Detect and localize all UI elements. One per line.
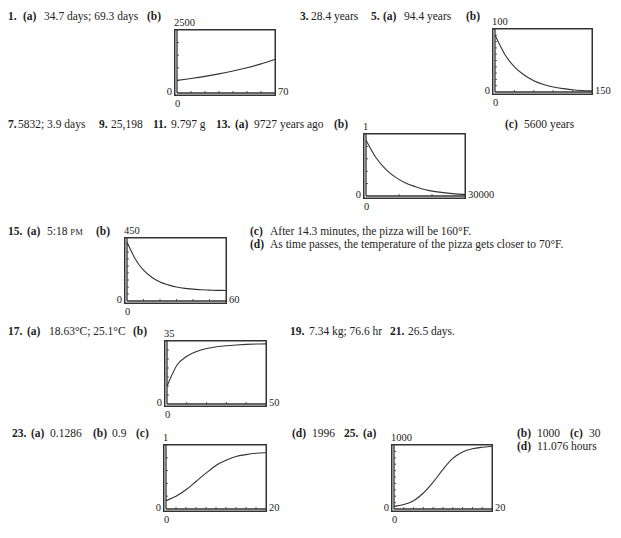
- answer-25d: 11.076 hours: [537, 440, 597, 453]
- answer-5a: 94.4 years: [404, 10, 451, 23]
- y-max-label: 1000: [391, 432, 412, 443]
- answer-number-11: 11.: [153, 118, 167, 131]
- graph-ex23c: 10020: [163, 444, 267, 512]
- x-max-label: 150: [595, 85, 611, 96]
- answer-number-13: 13.: [216, 118, 230, 131]
- answer-number-25: 25.: [344, 427, 358, 440]
- part-label-13b: (b): [334, 118, 348, 131]
- y-max-label: 450: [124, 225, 140, 236]
- x-max-label: 20: [269, 502, 280, 513]
- graph-plot: [492, 28, 593, 95]
- y-min-label: 0: [485, 85, 490, 96]
- y-max-label: 2500: [174, 17, 195, 28]
- graph-ex1b: 25000070: [174, 29, 276, 96]
- answer-1a: 34.7 days; 69.3 days: [44, 10, 138, 23]
- answer-number-23: 23.: [12, 427, 26, 440]
- part-label-25a: (a): [363, 427, 376, 440]
- graph-ex25a: 10000020: [391, 444, 493, 512]
- part-label-23d: (d): [292, 427, 306, 440]
- x-max-label: 60: [229, 294, 240, 305]
- answer-11: 9.797 g: [171, 118, 206, 131]
- answer-number-15: 15.: [8, 225, 22, 238]
- x-max-label: 70: [278, 86, 289, 97]
- part-label-1b: (b): [147, 10, 161, 23]
- answer-17a: 18.63°C; 25.1°C: [49, 325, 126, 338]
- answer-19: 7.34 kg; 76.6 hr: [309, 325, 382, 338]
- y-max-label: 35: [164, 328, 175, 339]
- answer-23a: 0.1286: [50, 427, 82, 440]
- answer-number-5: 5.: [371, 10, 380, 23]
- x-min-label: 0: [165, 409, 170, 420]
- graph-plot: [391, 444, 493, 512]
- part-label-23b: (b): [93, 427, 107, 440]
- y-min-label: 0: [156, 502, 161, 513]
- x-min-label: 0: [364, 201, 369, 212]
- answer-number-17: 17.: [8, 325, 22, 338]
- part-label-23c: (c): [136, 427, 149, 440]
- answer-number-3: 3.: [300, 10, 309, 23]
- answer-9: 25,198: [111, 118, 143, 131]
- x-max-label: 20: [495, 502, 506, 513]
- part-label-23a: (a): [31, 427, 44, 440]
- graph-plot: [124, 237, 227, 304]
- y-min-label: 0: [157, 397, 162, 408]
- part-label-1a: (a): [23, 10, 36, 23]
- part-label-5b: (b): [466, 10, 480, 23]
- answer-15a: 5:18 PM: [47, 225, 83, 239]
- graph-plot: [164, 340, 267, 407]
- y-min-label: 0: [356, 189, 361, 200]
- x-min-label: 0: [175, 98, 180, 109]
- graph-ex5b: 10000150: [492, 28, 593, 95]
- x-max-label: 30000: [468, 189, 494, 200]
- answer-23b: 0.9: [112, 427, 126, 440]
- answer-25b: 1000: [537, 427, 560, 440]
- y-min-label: 0: [384, 502, 389, 513]
- y-max-label: 100: [492, 16, 508, 27]
- answer-25c: 30: [589, 427, 601, 440]
- answer-7: 5832; 3.9 days: [18, 118, 85, 131]
- y-min-label: 0: [117, 294, 122, 305]
- answer-number-21: 21.: [390, 325, 404, 338]
- y-max-label: 1: [163, 432, 168, 443]
- part-label-15a: (a): [27, 225, 40, 238]
- x-max-label: 50: [269, 397, 280, 408]
- x-min-label: 0: [125, 306, 130, 317]
- graph-plot: [163, 444, 267, 512]
- part-label-25b: (b): [517, 427, 531, 440]
- y-min-label: 0: [167, 86, 172, 97]
- graph-plot: [174, 29, 276, 96]
- graph-ex15b: 4500060: [124, 237, 227, 304]
- answer-3: 28.4 years: [311, 10, 358, 23]
- x-min-label: 0: [164, 514, 169, 525]
- answer-15c: After 14.3 minutes, the pizza will be 16…: [270, 225, 471, 238]
- graph-ex17b: 350050: [164, 340, 267, 407]
- graph-plot: [363, 133, 466, 199]
- x-min-label: 0: [392, 514, 397, 525]
- part-label-5a: (a): [383, 10, 396, 23]
- part-label-13c: (c): [505, 118, 518, 131]
- answer-number-1: 1.: [8, 10, 17, 23]
- part-label-15c: (c): [250, 225, 263, 238]
- part-label-17b: (b): [133, 325, 147, 338]
- part-label-15d: (d): [250, 238, 264, 251]
- answer-23d: 1996: [312, 427, 335, 440]
- y-max-label: 1: [363, 121, 368, 132]
- part-label-15b: (b): [96, 225, 110, 238]
- x-min-label: 0: [493, 97, 498, 108]
- part-label-25c: (c): [570, 427, 583, 440]
- answer-21: 26.5 days.: [408, 325, 455, 338]
- answer-13a: 9727 years ago: [254, 118, 324, 131]
- part-label-13a: (a): [235, 118, 248, 131]
- graph-ex13b: 10030000: [363, 133, 466, 199]
- part-label-17a: (a): [27, 325, 40, 338]
- answer-13c: 5600 years: [524, 118, 574, 131]
- answer-number-7: 7.: [8, 118, 17, 131]
- answer-number-19: 19.: [290, 325, 304, 338]
- answer-number-9: 9.: [99, 118, 108, 131]
- answer-15d: As time passes, the temperature of the p…: [270, 238, 563, 251]
- part-label-25d: (d): [517, 440, 531, 453]
